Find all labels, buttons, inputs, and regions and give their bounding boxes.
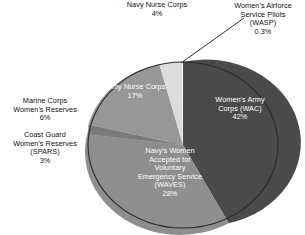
slice-label-waves: Navy's Women Accepted for Voluntary Emer… <box>123 147 217 199</box>
pie-chart: Navy Nurse Corps 4% Women's Airforce Ser… <box>0 0 305 235</box>
slice-label-womens-army-corps: Women's Army Corps (WAC) 42% <box>196 96 284 122</box>
slice-label-wasp: Women's Airforce Service Pilots (WASP) 0… <box>222 2 304 36</box>
slice-label-marine-corps-womens-reserves: Marine Corps Women's Reserves 6% <box>2 97 88 123</box>
slice-label-coast-guard-spars: Coast Guard Women's Reserves (SPARS) 3% <box>2 131 88 165</box>
slice-label-navy-nurse-corps: Navy Nurse Corps 4% <box>109 1 205 18</box>
slice-label-army-nurse-corps: Army Nurse Corps 17% <box>93 83 177 100</box>
